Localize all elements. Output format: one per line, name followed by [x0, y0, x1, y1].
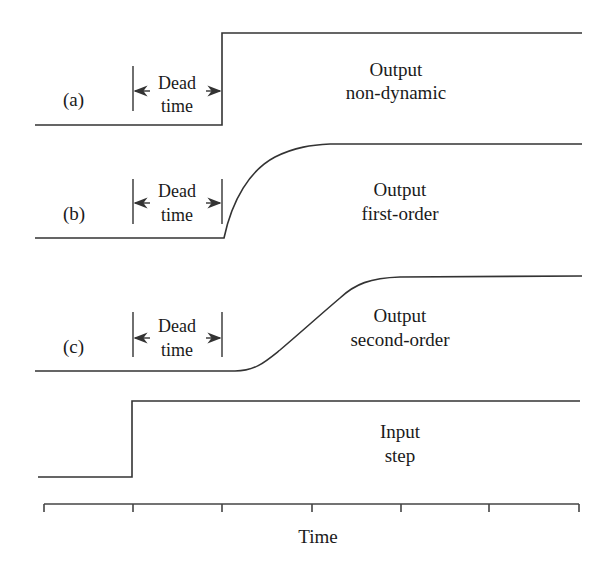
panel-b-subtitle: first-order — [361, 203, 439, 224]
dead-time-label-a-2: time — [161, 96, 193, 116]
panel-c: (c) Dead time Output second-order — [35, 276, 582, 371]
panel-b-title: Output — [374, 179, 428, 200]
panel-input: Input step — [38, 401, 580, 477]
panel-b-tag: (b) — [63, 203, 85, 225]
panel-a-title: Output — [370, 59, 424, 80]
panel-a: (a) Dead time Output non-dynamic — [35, 33, 582, 125]
dead-time-response-figure: t (a) Dead time Output non-dynamic (b) D… — [0, 0, 610, 570]
panel-c-tag: (c) — [63, 336, 84, 358]
dead-time-label-b-2: time — [161, 205, 193, 225]
dead-time-label-c-2: time — [161, 340, 193, 360]
panel-c-title: Output — [374, 305, 428, 326]
dead-time-label-c-1: Dead — [158, 316, 196, 336]
panel-b: (b) Dead time Output first-order — [35, 144, 582, 238]
output-b-trace — [35, 144, 582, 238]
time-axis-label: Time — [298, 526, 337, 547]
panel-a-subtitle: non-dynamic — [346, 82, 446, 103]
dead-time-label-a-1: Dead — [158, 73, 196, 93]
time-axis: Time — [44, 504, 579, 547]
dead-time-label-b-1: Dead — [158, 181, 196, 201]
input-step-trace — [38, 401, 580, 477]
input-subtitle: step — [385, 445, 416, 466]
panel-a-tag: (a) — [63, 89, 84, 111]
output-c-trace — [35, 276, 582, 371]
output-a-trace — [35, 33, 582, 125]
input-title: Input — [380, 421, 421, 442]
panel-c-subtitle: second-order — [350, 329, 450, 350]
